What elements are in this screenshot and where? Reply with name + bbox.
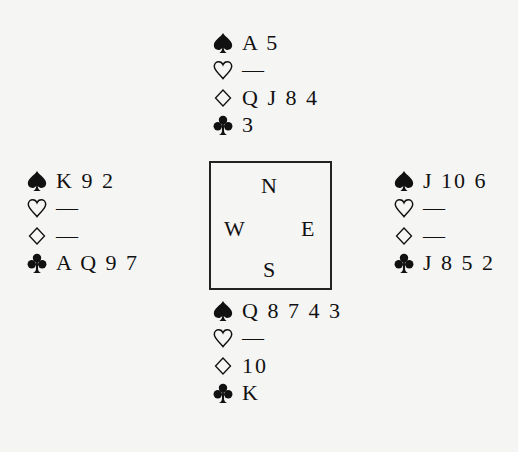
- spade-icon: [210, 32, 236, 54]
- west-hearts-row: —: [24, 195, 139, 223]
- west-spades-row: K 9 2: [24, 167, 139, 195]
- west-clubs-cards: A Q 9 7: [56, 252, 139, 274]
- north-spades-cards: A 5: [242, 32, 279, 54]
- north-hearts-row: —: [210, 57, 319, 85]
- diamond-icon: [210, 88, 236, 108]
- compass-west-label: W: [224, 218, 245, 240]
- east-clubs-cards: J 8 5 2: [423, 252, 495, 274]
- east-diamonds-row: —: [391, 222, 495, 250]
- south-diamonds-row: 10: [210, 352, 342, 380]
- heart-icon: [210, 327, 236, 349]
- east-hearts-row: —: [391, 195, 495, 223]
- west-diamonds-cards: —: [56, 225, 80, 247]
- north-clubs-row: 3: [210, 112, 319, 140]
- south-spades-cards: Q 8 7 4 3: [242, 300, 342, 322]
- north-hand: A 5 — Q J 8 4 3: [210, 29, 319, 139]
- north-spades-row: A 5: [210, 29, 319, 57]
- south-clubs-cards: K: [242, 382, 260, 404]
- north-hearts-cards: —: [242, 59, 266, 81]
- east-spades-row: J 10 6: [391, 167, 495, 195]
- club-icon: [391, 252, 417, 274]
- east-diamonds-cards: —: [423, 225, 447, 247]
- east-spades-cards: J 10 6: [423, 170, 488, 192]
- spade-icon: [210, 300, 236, 322]
- west-spades-cards: K 9 2: [56, 170, 115, 192]
- compass-south-label: S: [263, 259, 275, 281]
- south-hand: Q 8 7 4 3 — 10 K: [210, 297, 342, 407]
- east-hearts-cards: —: [423, 197, 447, 219]
- south-hearts-row: —: [210, 325, 342, 353]
- compass-north-label: N: [261, 175, 277, 197]
- east-hand: J 10 6 — — J 8 5 2: [391, 167, 495, 277]
- east-clubs-row: J 8 5 2: [391, 250, 495, 278]
- diamond-icon: [24, 226, 50, 246]
- club-icon: [210, 382, 236, 404]
- west-diamonds-row: —: [24, 222, 139, 250]
- spade-icon: [24, 170, 50, 192]
- north-clubs-cards: 3: [242, 114, 255, 136]
- spade-icon: [391, 170, 417, 192]
- west-hearts-cards: —: [56, 197, 80, 219]
- south-clubs-row: K: [210, 380, 342, 408]
- west-hand: K 9 2 — — A Q 9 7: [24, 167, 139, 277]
- west-clubs-row: A Q 9 7: [24, 250, 139, 278]
- south-hearts-cards: —: [242, 327, 266, 349]
- compass-box: N W E S: [209, 161, 332, 290]
- compass-east-label: E: [301, 218, 314, 240]
- heart-icon: [391, 197, 417, 219]
- diamond-icon: [391, 226, 417, 246]
- heart-icon: [24, 197, 50, 219]
- south-diamonds-cards: 10: [242, 355, 268, 377]
- club-icon: [210, 114, 236, 136]
- diamond-icon: [210, 356, 236, 376]
- south-spades-row: Q 8 7 4 3: [210, 297, 342, 325]
- heart-icon: [210, 59, 236, 81]
- club-icon: [24, 252, 50, 274]
- north-diamonds-cards: Q J 8 4: [242, 87, 319, 109]
- north-diamonds-row: Q J 8 4: [210, 84, 319, 112]
